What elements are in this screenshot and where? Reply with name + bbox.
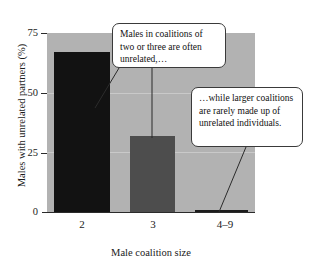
y-axis-title: Males with unrelated partners (%) [16,26,27,206]
ytick-label-25: 25 [28,147,39,158]
x-axis-line [42,212,255,213]
x-axis-title: Male coalition size [47,247,255,258]
xtick-label-3: 3 [123,218,183,230]
xtick-label-4-9: 4–9 [195,218,255,230]
ytick-label-0: 0 [33,206,38,217]
ytick-label-75: 75 [28,27,39,38]
callout-coalitions-two-or-three: Males in coalitions of two or three are … [112,23,226,68]
ytick-mark-25 [41,153,47,154]
xtick-label-2: 2 [52,218,112,230]
chart-figure: 75 50 25 0 Males with unrelated partners… [0,0,315,274]
bar-coalition-3 [130,136,175,212]
ytick-mark-75 [41,33,47,34]
callout-larger-coalitions: …while larger coalitions are rarely made… [191,87,303,147]
ytick-label-50: 50 [28,87,39,98]
bar-coalition-2 [54,52,110,212]
ytick-mark-50 [41,93,47,94]
